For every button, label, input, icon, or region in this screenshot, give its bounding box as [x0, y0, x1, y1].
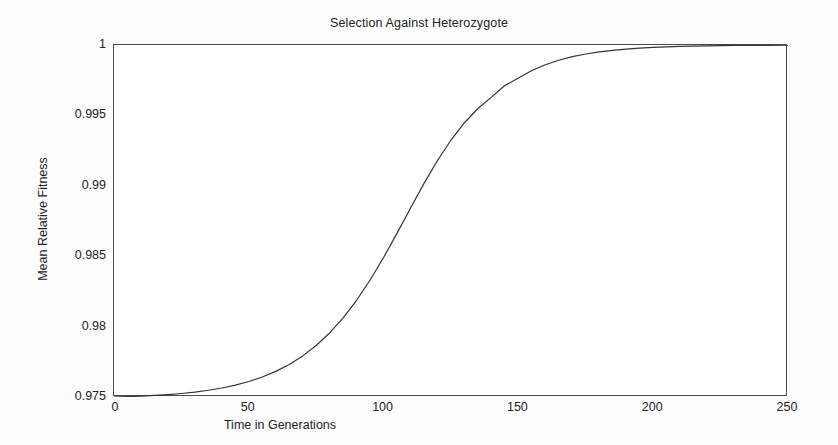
x-tick-label-3: 150	[507, 400, 528, 414]
x-tick-label-1: 50	[241, 400, 255, 414]
x-tick-label-2: 100	[372, 400, 393, 414]
x-tick-label-4: 200	[642, 400, 663, 414]
y-tick-label-4: 0.995	[75, 107, 106, 121]
y-tick-label-0: 0.975	[75, 389, 106, 403]
chart-figure: Selection Against Heterozygote 0.975 0.9…	[0, 0, 838, 445]
fitness-curve	[114, 45, 788, 397]
y-tick-label-1: 0.98	[82, 319, 106, 333]
plot-area	[113, 44, 787, 396]
y-axis-tick-labels: 0.975 0.98 0.985 0.99 0.995 1	[0, 0, 106, 445]
x-tick-label-0: 0	[112, 400, 119, 414]
y-tick-label-2: 0.985	[75, 248, 106, 262]
series-line-mean-relative-fitness	[114, 45, 788, 397]
x-tick-label-5: 250	[777, 400, 798, 414]
x-axis-label: Time in Generations	[0, 418, 560, 432]
y-tick-label-3: 0.99	[82, 178, 106, 192]
chart-title: Selection Against Heterozygote	[0, 16, 838, 30]
y-tick-label-5: 1	[99, 37, 106, 51]
y-axis-label: Mean Relative Fitness	[36, 134, 50, 304]
